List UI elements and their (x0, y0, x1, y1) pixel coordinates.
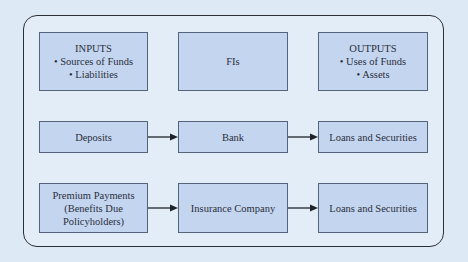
fis-box: FIs (178, 32, 288, 91)
inputs-box: INPUTS • Sources of Funds • Liabilities (39, 32, 148, 91)
bank-loans-label: Loans and Securities (329, 131, 416, 144)
arrow-right-icon (148, 132, 178, 142)
insurance-loans-box: Loans and Securities (318, 183, 428, 233)
outputs-title: OUTPUTS (349, 42, 396, 55)
bank-loans-box: Loans and Securities (318, 121, 428, 153)
inputs-title: INPUTS (75, 42, 112, 55)
inputs-bullet-sources: • Sources of Funds (54, 55, 133, 68)
premium-payments-box: Premium Payments (Benefits Due Policyhol… (39, 183, 148, 233)
premium-line-2: (Benefits Due (64, 202, 123, 215)
deposits-label: Deposits (75, 131, 112, 144)
insurance-company-box: Insurance Company (178, 183, 288, 233)
deposits-box: Deposits (39, 121, 148, 153)
arrow-right-icon (288, 203, 318, 213)
insurance-loans-label: Loans and Securities (329, 202, 416, 215)
arrow-right-icon (148, 203, 178, 213)
arrow-right-icon (288, 132, 318, 142)
premium-line-3: Policyholders) (63, 215, 124, 228)
outputs-box: OUTPUTS • Uses of Funds • Assets (318, 32, 428, 91)
premium-line-1: Premium Payments (53, 189, 135, 202)
outputs-bullet-assets: • Assets (356, 68, 389, 81)
bank-label: Bank (222, 131, 244, 144)
fis-title: FIs (226, 55, 239, 68)
bank-box: Bank (178, 121, 288, 153)
outputs-bullet-uses: • Uses of Funds (340, 55, 406, 68)
insurance-company-label: Insurance Company (191, 202, 275, 215)
inputs-bullet-liabilities: • Liabilities (69, 68, 118, 81)
